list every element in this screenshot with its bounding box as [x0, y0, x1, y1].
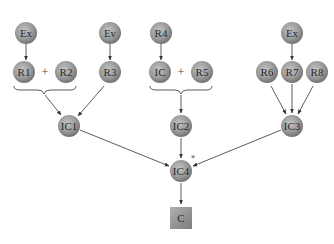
plus-operator: +: [42, 65, 49, 79]
brace-r1-r2: [14, 86, 76, 94]
node-ic: IC: [149, 61, 171, 83]
node-ic1: IC1: [58, 115, 80, 137]
node-label: R7: [286, 66, 299, 78]
node-label: R4: [155, 27, 168, 39]
node-r2: R2: [55, 61, 77, 83]
node-label: R6: [261, 66, 274, 78]
node-label: IC3: [284, 120, 301, 132]
node-r8: R8: [306, 61, 328, 83]
node-label: R3: [104, 66, 117, 78]
node-label: IC4: [173, 165, 190, 177]
node-label: R2: [60, 66, 73, 78]
edge-r3-ic1: [78, 86, 104, 116]
node-label: IC2: [173, 120, 190, 132]
edge-r8-ic3: [298, 86, 313, 114]
node-label: C: [177, 212, 184, 224]
node-label: R1: [18, 66, 31, 78]
node-ic2: IC2: [170, 115, 192, 137]
plus-operator: +: [178, 65, 185, 79]
reaction-diagram: + + Ex R1 R2 Ev R3 R4 IC R5 Ex R6: [0, 0, 334, 244]
node-r4: R4: [150, 22, 172, 44]
node-ic4: IC4 *: [170, 154, 195, 182]
edge-ic3-ic4: [193, 130, 281, 166]
brace-ic-r5: [150, 86, 212, 94]
node-r6: R6: [256, 61, 278, 83]
node-label: Ex: [20, 27, 33, 39]
node-label: R8: [311, 66, 324, 78]
node-r5: R5: [191, 61, 213, 83]
node-label: R5: [196, 66, 209, 78]
edge-r6-ic3: [271, 86, 286, 114]
node-ex1: Ex: [15, 22, 37, 44]
node-r7: R7: [281, 61, 303, 83]
node-label: IC: [155, 66, 166, 78]
node-c: C: [170, 207, 192, 229]
node-ex2: Ex: [281, 22, 303, 44]
edge-r1r2-ic1: [45, 95, 61, 115]
node-label: IC1: [61, 120, 78, 132]
asterisk-annotation: *: [191, 154, 195, 163]
node-ic3: IC3: [281, 115, 303, 137]
node-label: Ev: [104, 27, 117, 39]
node-r3: R3: [99, 61, 121, 83]
node-label: Ex: [286, 27, 299, 39]
node-r1: R1: [13, 61, 35, 83]
node-ev: Ev: [99, 22, 121, 44]
edge-ic1-ic4: [80, 130, 169, 166]
